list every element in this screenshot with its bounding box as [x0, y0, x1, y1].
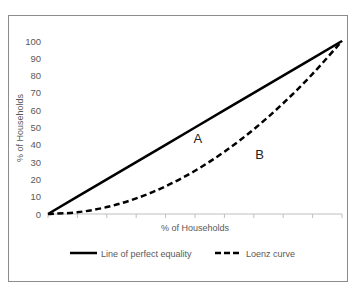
- region-label-a: A: [194, 131, 203, 146]
- legend-label-equality: Line of perfect equality: [101, 249, 192, 259]
- x-axis-title: % of Households: [161, 223, 230, 233]
- region-labels: AB: [194, 131, 264, 162]
- y-tick-label: 70: [30, 87, 41, 98]
- y-tick-label: 10: [30, 191, 41, 202]
- x-axis: [48, 214, 342, 218]
- equality-line: [48, 41, 342, 214]
- legend: Line of perfect equality Loenz curve: [70, 249, 295, 259]
- y-tick-label: 100: [25, 36, 41, 47]
- y-tick-label: 50: [30, 122, 41, 133]
- y-tick-label: 40: [30, 139, 41, 150]
- y-tick-label: 90: [30, 53, 41, 64]
- y-tick-label: 60: [30, 105, 41, 116]
- y-tick-label: 30: [30, 157, 41, 168]
- plot-lines: [48, 41, 342, 214]
- y-axis-title: % of Households: [15, 93, 25, 162]
- lorenz-chart: 0102030405060708090100 AB % of Household…: [0, 0, 355, 295]
- legend-label-lorenz: Loenz curve: [246, 249, 295, 259]
- y-axis-ticks: 0102030405060708090100: [25, 36, 41, 220]
- region-label-b: B: [255, 147, 264, 162]
- y-tick-label: 0: [36, 209, 41, 220]
- y-tick-label: 80: [30, 70, 41, 81]
- y-tick-label: 20: [30, 174, 41, 185]
